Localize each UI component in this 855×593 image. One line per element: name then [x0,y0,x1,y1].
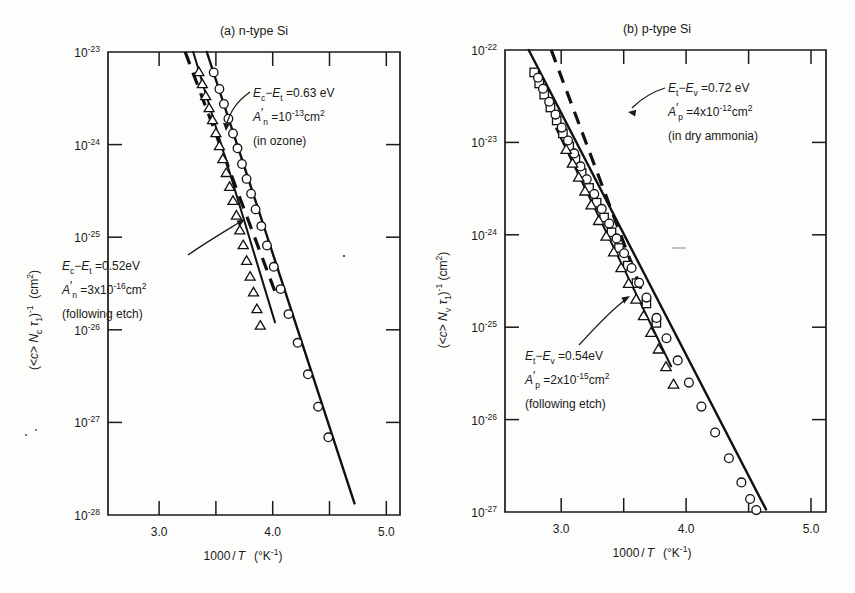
annotation-lower-line1: Ec−Et =0.52eV [62,259,140,276]
annotation-upper-line3: (in dry ammonia) [668,129,758,143]
panel-b-annotation-lower: Et−Ev =0.54eV A′p =2x10-15cm2 (following… [524,296,630,411]
panel-b-x-ticklabels: 3.0 4.0 5.0 [553,522,820,536]
x-ticklabel: 3.0 [151,525,168,539]
y-ticklabel: 10-28 [74,507,100,523]
panel-b-ylabel: (<c> Nv τ1)-1 (cm2) [434,252,453,348]
y-ticklabel: 10-24 [74,137,100,153]
panel-n-type-si: (a) n-type Si 10-23 10-24 1 [0,0,428,593]
panel-p-type-si: (b) p-type Si 10-22 10-23 10-24 10-25 [427,0,855,593]
y-ticklabel: 10-25 [471,319,497,335]
y-ticklabel: 10-25 [74,229,100,245]
solid-fit-main [529,50,766,509]
y-ticklabel: 10-26 [471,412,497,428]
panel-a-ylabel: (<c> Nc τ1)-1 (cm2) [25,270,44,370]
figure-container: (a) n-type Si 10-23 10-24 1 [0,0,855,593]
y-ticklabel: 10-23 [471,134,497,150]
x-ticklabel: 5.0 [378,525,395,539]
annotation-lower-line3: (following etch) [62,307,143,321]
y-ticklabel: 10-22 [471,42,497,58]
y-ticklabel: 10-27 [74,414,100,430]
x-ticklabel: 3.0 [553,522,570,536]
panel-a-y-ticks [108,145,400,423]
panel-b-xlabel: 1000/T(°K-1) [613,544,692,560]
dashed-fit-ammonia [551,50,643,296]
annotation-upper-line3: (in ozone) [253,134,306,148]
y-ticklabel: 10-24 [471,227,497,243]
annotation-lower-line2: A′n =3x10-16cm2 [61,279,147,300]
scan-speck [343,255,345,257]
panel-b-annotation-upper: Et−Ev =0.72 eV A′p =4x10-12cm2 (in dry a… [628,81,758,143]
y-axis-title: (<c> Nc τ1)-1 (cm2) [25,270,44,370]
panel-a-xlabel: 1000/T(°K-1) [204,547,283,563]
annotation-lower-line2: A′p =2x10-15cm2 [524,369,610,390]
y-ticklabel: 10-26 [74,322,100,338]
scan-speck [35,429,37,431]
panel-b-svg: (b) p-type Si 10-22 10-23 10-24 10-25 [427,0,855,593]
y-ticklabel: 10-23 [74,44,100,60]
panel-b-title: (b) p-type Si [623,22,691,36]
panel-a-title: (a) n-type Si [220,24,288,38]
y-axis-title: (<c> Nv τ1)-1 (cm2) [434,252,453,348]
x-axis-title: 1000/T(°K-1) [204,547,283,563]
panel-a-svg: (a) n-type Si 10-23 10-24 1 [0,0,428,593]
y-ticklabel: 10-27 [471,504,497,520]
panel-b-y-ticklabels: 10-22 10-23 10-24 10-25 10-26 10-27 [471,42,497,520]
x-ticklabel: 4.0 [678,522,695,536]
x-axis-title: 1000/T(°K-1) [613,544,692,560]
scan-speck [672,247,686,249]
x-ticklabel: 4.0 [264,525,281,539]
x-ticklabel: 5.0 [803,522,820,536]
annotation-lower-line1: Et−Ev =0.54eV [525,349,603,366]
annotation-upper-line1: Ec−Et =0.63 eV [253,86,334,103]
panel-b-x-ticks [561,50,811,512]
scan-speck [25,434,27,436]
panel-a-annotation-upper: Ec−Et =0.63 eV A′n =10-13cm2 (in ozone) [223,86,334,148]
annotation-upper-line2: A′p =4x10-12cm2 [667,101,753,122]
annotation-upper-line1: Et−Ev =0.72 eV [668,81,749,98]
panel-a-x-ticklabels: 3.0 4.0 5.0 [151,525,395,539]
annotation-lower-line3: (following etch) [525,397,606,411]
annotation-upper-line2: A′n =10-13cm2 [252,106,325,127]
